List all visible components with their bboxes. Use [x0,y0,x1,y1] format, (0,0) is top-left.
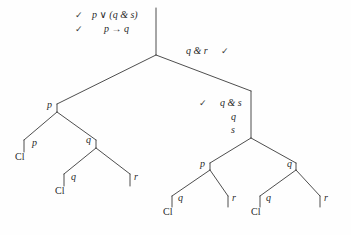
edge-root-split-left [57,55,156,104]
leaf-7-r: r [324,193,328,203]
proof-tree-figure: ✓ p ∨ (q & s) ✓ p → q q & r ✓ ✓ q & s q … [0,0,351,235]
annotation-q-and-r: q & r [186,46,208,56]
leaf-3-r: r [134,172,138,182]
premise-2-formula: p → q [104,24,129,34]
edge-rq-split-right [296,170,320,196]
annotation-q-and-s: q & s [220,98,242,108]
edge-rp-split-right [210,170,228,196]
annotation-q: q [231,112,236,122]
node-right-p: p [200,159,205,169]
node-left-p: p [47,100,52,110]
tree-edges-svg [0,0,351,235]
annotation-q-and-s-check: ✓ [199,99,207,108]
leaf-6-q: q [266,193,271,203]
annotation-q-and-r-check: ✓ [221,47,229,56]
closed-marker-1: Cl [15,152,24,162]
node-right-q: q [287,159,292,169]
edge-left-q-split-left [64,148,96,174]
premise-1-check: ✓ [75,11,83,20]
edge-left-split-left [24,112,57,140]
annotation-s: s [231,125,235,135]
leaf-5-r: r [232,193,236,203]
leaf-1-p: p [32,138,37,148]
node-left-q: q [86,135,91,145]
closed-marker-4: Cl [251,207,260,217]
closed-marker-2: Cl [55,186,64,196]
leaf-4-q: q [178,193,183,203]
closed-marker-3: Cl [163,207,172,217]
edge-root-split-right [156,55,251,91]
premise-2-check: ✓ [75,25,83,34]
premise-1-formula: p ∨ (q & s) [92,10,138,20]
leaf-2-q: q [71,172,76,182]
edge-right-split-left [210,138,251,163]
edge-left-q-split-right [96,148,130,174]
